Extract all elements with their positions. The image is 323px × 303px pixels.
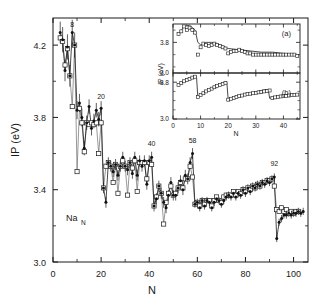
inset-a-panel-tag: (a) [282, 29, 292, 38]
x-tick-label: 60 [192, 269, 202, 279]
experiment-marker [256, 183, 259, 186]
experiment-marker [104, 201, 107, 204]
species-label-subscript: N [81, 219, 86, 226]
inset-x-tick-labels: 010203040 [171, 122, 287, 129]
inset-x-tick-label: 0 [171, 122, 175, 129]
experiment-marker [266, 179, 269, 182]
experiment-marker [244, 192, 247, 195]
experiment-marker [268, 181, 271, 184]
experiment-marker [136, 174, 139, 177]
experiment-marker [263, 183, 266, 186]
experiment-marker [102, 186, 105, 189]
experiment-marker [88, 105, 91, 108]
experiment-marker [246, 186, 249, 189]
magic-number-label: 40 [148, 140, 156, 147]
experiment-marker [148, 159, 151, 162]
experiment-marker [237, 192, 240, 195]
theory-marker [111, 180, 115, 184]
experiment-marker [239, 194, 242, 197]
experiment-marker [213, 201, 216, 204]
theory-marker [80, 121, 84, 125]
experiment-marker [100, 107, 103, 110]
experiment-marker [124, 165, 127, 168]
magic-number-label: 8 [70, 21, 74, 28]
experiment-marker [179, 179, 182, 182]
experiment-marker [302, 210, 305, 213]
y-tick-label: 3.4 [33, 185, 46, 195]
inset-a-y-tick-labels: 3.8 [160, 39, 169, 46]
inset-b-marker [296, 93, 299, 96]
experiment-marker [167, 194, 170, 197]
theory-marker [116, 191, 120, 195]
experiment-marker [155, 197, 158, 200]
experiment-marker [198, 206, 201, 209]
theory-marker [133, 159, 137, 163]
inset-b-marker [268, 89, 271, 92]
experiment-marker [177, 186, 180, 189]
x-tick-label: 100 [286, 269, 301, 279]
experiment-marker [203, 204, 206, 207]
experiment-marker [285, 214, 288, 217]
theory-marker [130, 166, 134, 170]
magic-number-label: 58 [189, 137, 197, 144]
theory-marker [162, 222, 166, 226]
theory-marker [97, 151, 101, 155]
chart-canvas: 020406080100 3.03.43.84.2 820405892 N IP… [0, 0, 323, 303]
experiment-marker [299, 212, 302, 215]
theory-marker [190, 175, 194, 179]
theory-marker [272, 184, 276, 188]
inset-b-marker [194, 75, 197, 78]
experiment-marker [184, 174, 187, 177]
species-label-main: Na [66, 213, 78, 223]
experiment-marker [141, 165, 144, 168]
experiment-marker [275, 237, 278, 240]
experiment-marker [196, 201, 199, 204]
inset-y-axis-title: IP (eV) [157, 63, 165, 85]
theory-marker [63, 63, 67, 67]
experiment-marker [61, 38, 64, 41]
experiment-marker [80, 116, 83, 119]
experiment-marker [78, 101, 81, 104]
inset-a-marker [199, 46, 202, 49]
experiment-marker [162, 201, 165, 204]
experiment-marker [112, 170, 115, 173]
experiment-marker [181, 188, 184, 191]
inset-a-marker [224, 47, 227, 50]
theory-marker [135, 189, 139, 193]
experiment-marker [249, 190, 252, 193]
theory-marker [82, 150, 86, 154]
experiment-marker [126, 168, 129, 171]
inset-b-y-tick-label: 3.0 [160, 115, 169, 122]
experiment-marker [68, 74, 71, 77]
experiment-marker [119, 165, 122, 168]
theory-marker [121, 159, 125, 163]
experiment-marker [157, 185, 160, 188]
y-tick-label: 4.2 [33, 41, 46, 51]
experiment-marker [234, 195, 237, 198]
inset-a-y-tick-label: 3.8 [160, 39, 169, 46]
experiment-marker [145, 183, 148, 186]
experiment-marker [165, 206, 168, 209]
experiment-marker [66, 45, 69, 48]
inset-a-marker [296, 54, 299, 57]
experiment-marker [189, 161, 192, 164]
experiment-marker [138, 159, 141, 162]
species-label: Na N [66, 213, 86, 226]
inset-x-tick-label: 10 [197, 122, 205, 129]
experiment-marker [290, 214, 293, 217]
experiment-marker [205, 199, 208, 202]
experiment-marker [186, 177, 189, 180]
figure-root: 020406080100 3.03.43.84.2 820405892 N IP… [0, 0, 323, 303]
inset-a-marker [183, 25, 186, 28]
experiment-marker [153, 204, 156, 207]
y-tick-label: 3.0 [33, 258, 46, 268]
experiment-marker [222, 199, 225, 202]
x-axis-title: N [148, 284, 156, 296]
inset-b-panel-tag: (b) [282, 88, 292, 97]
x-tick-label: 80 [240, 269, 250, 279]
inset-x-tick-label: 40 [280, 122, 288, 129]
theory-marker [150, 162, 154, 166]
experiment-marker [297, 210, 300, 213]
experiment-marker [261, 181, 264, 184]
x-tick-label: 20 [96, 269, 106, 279]
